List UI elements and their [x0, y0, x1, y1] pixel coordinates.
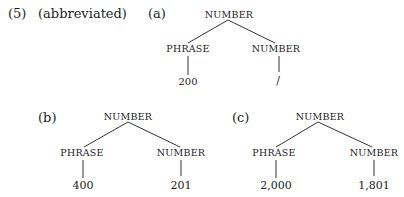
left-leaf: 200	[178, 77, 197, 87]
right-node: NUMBER	[350, 148, 398, 158]
right-leaf: 201	[171, 180, 192, 191]
tree-label: (c)	[232, 111, 249, 124]
left-leaf: 2,000	[260, 180, 292, 191]
tree-label: (a)	[148, 7, 166, 20]
left-leaf: 400	[73, 180, 94, 191]
left-node: PHRASE	[166, 44, 209, 54]
left-node: PHRASE	[60, 148, 103, 158]
tree-edges	[0, 0, 404, 197]
root-node: NUMBER	[205, 10, 253, 20]
root-node: NUMBER	[296, 112, 344, 122]
right-leaf: 1,801	[358, 180, 390, 191]
root-node: NUMBER	[104, 112, 152, 122]
tree-label: (b)	[38, 111, 56, 124]
right-node: NUMBER	[157, 148, 205, 158]
right-leaf: /	[276, 75, 280, 86]
left-node: PHRASE	[252, 148, 295, 158]
right-node: NUMBER	[252, 44, 300, 54]
